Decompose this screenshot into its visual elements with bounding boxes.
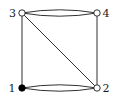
node-1 bbox=[19, 85, 25, 91]
node-2 bbox=[94, 85, 100, 91]
graph-diagram: 1 2 3 4 bbox=[0, 0, 119, 100]
node-label-2: 2 bbox=[103, 82, 110, 95]
node-label-4: 4 bbox=[103, 7, 110, 20]
node-3 bbox=[19, 10, 25, 16]
node-4 bbox=[94, 10, 100, 16]
edges-layer bbox=[22, 10, 97, 91]
edge-1-2-curved-upper bbox=[22, 85, 97, 88]
edge-3-4-curved-upper bbox=[22, 10, 97, 13]
node-label-1: 1 bbox=[9, 82, 16, 95]
edge-3-2-straight bbox=[22, 13, 97, 88]
edge-3-4-curved-lower bbox=[22, 13, 97, 16]
node-label-3: 3 bbox=[9, 7, 16, 20]
edge-1-2-curved-lower bbox=[22, 88, 97, 91]
